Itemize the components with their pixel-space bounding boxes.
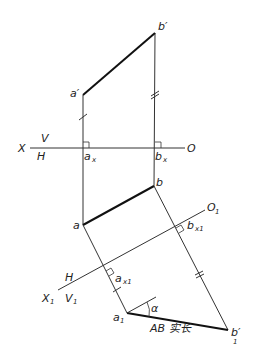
right-angle-ax [83, 142, 89, 148]
line-a-prime-b-prime [83, 33, 155, 95]
label-ax-sub: x [91, 156, 97, 164]
projector-a1 [83, 225, 127, 313]
line-a-b [83, 186, 154, 225]
label-a: a [73, 219, 80, 232]
label-b1-prime-sub: 1 [233, 338, 237, 346]
label-X: X [17, 142, 26, 155]
projector-b [154, 33, 155, 186]
label-ax1-sub: x1 [122, 278, 132, 286]
label-bx1-sub: x1 [194, 225, 204, 233]
label-X1: X [41, 292, 50, 305]
label-ax1: a [115, 272, 122, 285]
label-O1-sub: 1 [215, 208, 219, 216]
label-alpha: α [151, 302, 159, 315]
label-true-length: AB 实长 [149, 322, 192, 335]
label-a1-prime: a [113, 311, 120, 324]
label-b: b [156, 176, 163, 189]
right-angle-bx [155, 142, 161, 148]
label-bx: b [155, 150, 162, 163]
label-X1-sub: 1 [50, 298, 54, 306]
label-b-prime: b′ [158, 20, 168, 33]
label-V: V [41, 132, 50, 145]
label-ax: a [84, 150, 91, 163]
label-O: O [187, 142, 196, 155]
label-H-aux: H [65, 271, 73, 284]
label-a1-prime-sub: 1 [120, 317, 124, 325]
right-angle-ax1 [106, 268, 114, 276]
label-bx-sub: x [162, 156, 168, 164]
label-H: H [37, 150, 45, 163]
projection-diagram: b′ a′ X V H O a x b x b a O 1 b x1 a x1 … [0, 0, 263, 355]
label-V1-sub: 1 [73, 298, 77, 306]
label-bx1: b [187, 219, 194, 232]
alpha-arc [147, 302, 150, 317]
label-a-prime: a′ [70, 87, 80, 100]
